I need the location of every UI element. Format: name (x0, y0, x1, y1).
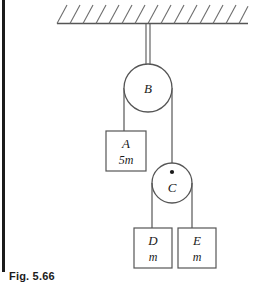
block-E: E m (178, 228, 216, 268)
pulley-C: C (152, 163, 192, 203)
figure-page: B A 5m C D m E m Fig. 5.66 (0, 0, 265, 290)
pulley-C-axle-dot (170, 170, 174, 174)
pulley-B: B (124, 64, 172, 112)
block-D: D m (134, 228, 172, 268)
block-E-label: E (192, 233, 201, 248)
block-D-label: D (147, 233, 158, 248)
pulley-C-label: C (168, 180, 177, 195)
block-A-mass: 5m (119, 153, 134, 167)
ceiling-support (57, 5, 248, 24)
block-A: A 5m (106, 131, 146, 171)
block-A-label: A (121, 136, 130, 151)
block-D-mass: m (149, 250, 158, 264)
pulley-B-label: B (144, 81, 152, 96)
pulley-system-diagram: B A 5m C D m E m (0, 0, 265, 290)
ceiling-hatching (57, 5, 248, 24)
block-E-mass: m (193, 250, 202, 264)
figure-caption: Fig. 5.66 (9, 270, 55, 282)
